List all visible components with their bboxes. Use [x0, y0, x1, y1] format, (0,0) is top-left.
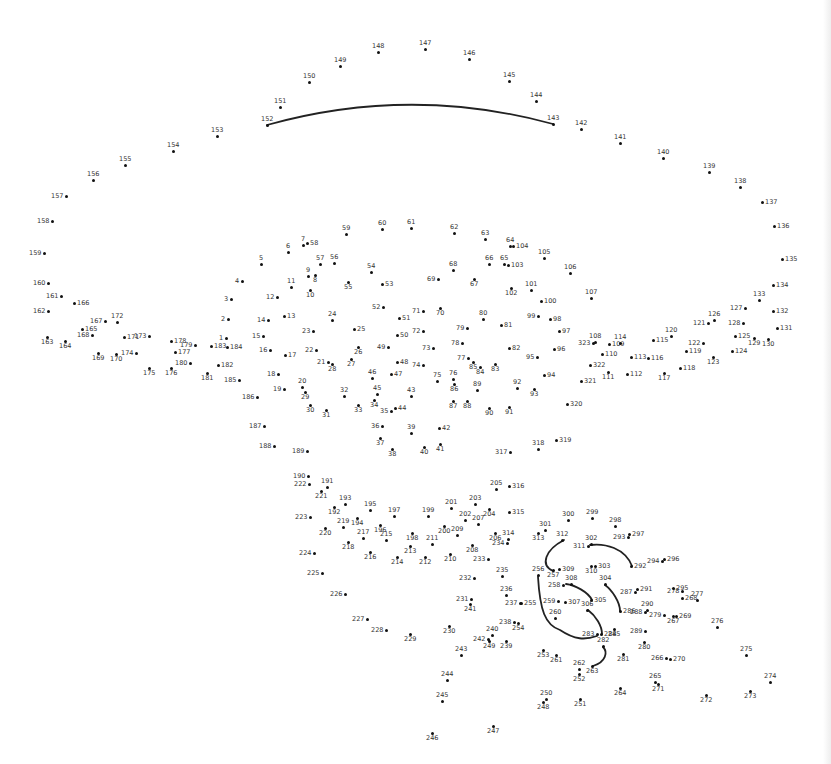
- dot-13: [283, 315, 286, 318]
- dot-315: [508, 511, 511, 514]
- dot-label-222: 222: [294, 481, 306, 488]
- dot-label-255: 255: [524, 600, 536, 607]
- dot-label-49: 49: [377, 344, 385, 351]
- dot-label-150: 150: [303, 73, 315, 80]
- dot-306: [586, 609, 589, 612]
- dot-146: [468, 58, 471, 61]
- dot-21: [327, 361, 330, 364]
- dot-124: [731, 350, 734, 353]
- dot-122: [702, 342, 705, 345]
- dot-287: [634, 591, 637, 594]
- dot-36: [381, 425, 384, 428]
- dot-label-12: 12: [266, 294, 274, 301]
- dot-297: [628, 533, 631, 536]
- dot-197: [393, 515, 396, 518]
- dot-label-101: 101: [525, 281, 537, 288]
- dot-label-142: 142: [575, 120, 587, 127]
- dot-label-236: 236: [500, 586, 512, 593]
- dot-314: [507, 538, 510, 541]
- dot-60: [381, 228, 384, 231]
- dot-label-240: 240: [486, 626, 498, 633]
- dot-112: [626, 373, 629, 376]
- dot-137: [761, 201, 764, 204]
- dot-label-177: 177: [178, 349, 190, 356]
- dot-label-74: 74: [412, 362, 420, 369]
- dot-label-17: 17: [288, 352, 296, 359]
- dot-label-159: 159: [29, 250, 41, 257]
- dot-label-77: 77: [457, 355, 465, 362]
- dot-label-76: 76: [449, 370, 457, 377]
- dot-label-59: 59: [342, 225, 350, 232]
- dot-label-143: 143: [547, 115, 559, 122]
- dot-label-279: 279: [649, 612, 661, 619]
- dot-label-36: 36: [371, 423, 379, 430]
- dot-label-291: 291: [640, 586, 652, 593]
- dot-7: [302, 244, 305, 247]
- dot-63: [484, 238, 487, 241]
- dot-label-173: 173: [134, 333, 146, 340]
- dot-label-2: 2: [221, 316, 225, 323]
- dot-106: [569, 272, 572, 275]
- dot-132: [772, 310, 775, 313]
- dot-label-130: 130: [762, 341, 774, 348]
- dot-label-270: 270: [673, 656, 685, 663]
- dot-282: [602, 645, 605, 648]
- dot-label-98: 98: [553, 316, 561, 323]
- dot-157: [65, 195, 68, 198]
- dot-128: [742, 322, 745, 325]
- dot-127: [744, 307, 747, 310]
- dot-label-295: 295: [676, 585, 688, 592]
- dot-label-13: 13: [287, 313, 295, 320]
- dot-label-112: 112: [630, 371, 642, 378]
- dot-label-157: 157: [51, 193, 63, 200]
- dot-154: [172, 150, 175, 153]
- dot-317: [509, 451, 512, 454]
- dot-57: [319, 263, 322, 266]
- dot-label-208: 208: [466, 547, 478, 554]
- dot-label-132: 132: [776, 308, 788, 315]
- dot-label-307: 307: [568, 599, 580, 606]
- dot-label-323: 323: [578, 340, 590, 347]
- dot-label-160: 160: [33, 280, 45, 287]
- dot-label-68: 68: [449, 261, 457, 268]
- dot-label-224: 224: [299, 550, 311, 557]
- dot-label-156: 156: [87, 171, 99, 178]
- dot-152: [266, 124, 269, 127]
- dot-label-205: 205: [490, 480, 502, 487]
- dot-label-174: 174: [121, 350, 133, 357]
- dot-44: [394, 407, 397, 410]
- dot-label-228: 228: [371, 627, 383, 634]
- dot-225: [321, 572, 324, 575]
- dot-label-22: 22: [305, 347, 313, 354]
- dot-label-187: 187: [249, 423, 261, 430]
- dot-82: [508, 347, 511, 350]
- dot-136: [773, 225, 776, 228]
- dot-label-25: 25: [357, 326, 365, 333]
- dot-label-316: 316: [512, 483, 524, 490]
- dot-label-100: 100: [544, 298, 556, 305]
- dot-243: [460, 654, 463, 657]
- dot-label-313: 313: [532, 535, 544, 542]
- dot-label-211: 211: [426, 535, 438, 542]
- dot-293: [627, 536, 630, 539]
- dot-label-40: 40: [420, 449, 428, 456]
- dot-label-283: 283: [582, 631, 594, 638]
- dot-label-238: 238: [499, 619, 511, 626]
- dot-103: [507, 264, 510, 267]
- dot-312: [561, 539, 564, 542]
- dot-label-39: 39: [407, 424, 415, 431]
- dot-110: [601, 353, 604, 356]
- dot-label-321: 321: [584, 378, 596, 385]
- dot-61: [410, 227, 413, 230]
- dot-105: [543, 257, 546, 260]
- dot-label-9: 9: [306, 267, 310, 274]
- dot-35: [390, 410, 393, 413]
- dot-label-263: 263: [586, 668, 598, 675]
- dot-label-247: 247: [487, 728, 499, 735]
- dot-label-203: 203: [469, 495, 481, 502]
- dot-label-296: 296: [667, 556, 679, 563]
- dot-label-63: 63: [481, 230, 489, 237]
- dot-label-320: 320: [570, 401, 582, 408]
- dot-250: [545, 698, 548, 701]
- dot-label-164: 164: [59, 343, 71, 350]
